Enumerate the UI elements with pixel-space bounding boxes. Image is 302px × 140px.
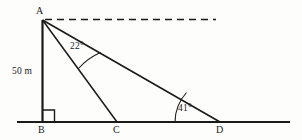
figure-canvas [0, 0, 302, 140]
sight-line-AD [43, 20, 221, 122]
geometry-figure: A B C D 50 m 22° 41° [0, 0, 302, 140]
height-measurement-label: 50 m [12, 67, 32, 77]
sight-line-AC [43, 20, 118, 122]
angle-arc-22 [79, 53, 101, 69]
right-angle-marker-B [43, 110, 55, 122]
vertex-label-d: D [216, 125, 223, 135]
angle-label-41: 41° [178, 104, 192, 114]
vertex-label-a: A [36, 6, 43, 16]
vertex-label-b: B [38, 125, 45, 135]
angle-label-22: 22° [70, 42, 84, 52]
vertex-label-c: C [113, 125, 120, 135]
